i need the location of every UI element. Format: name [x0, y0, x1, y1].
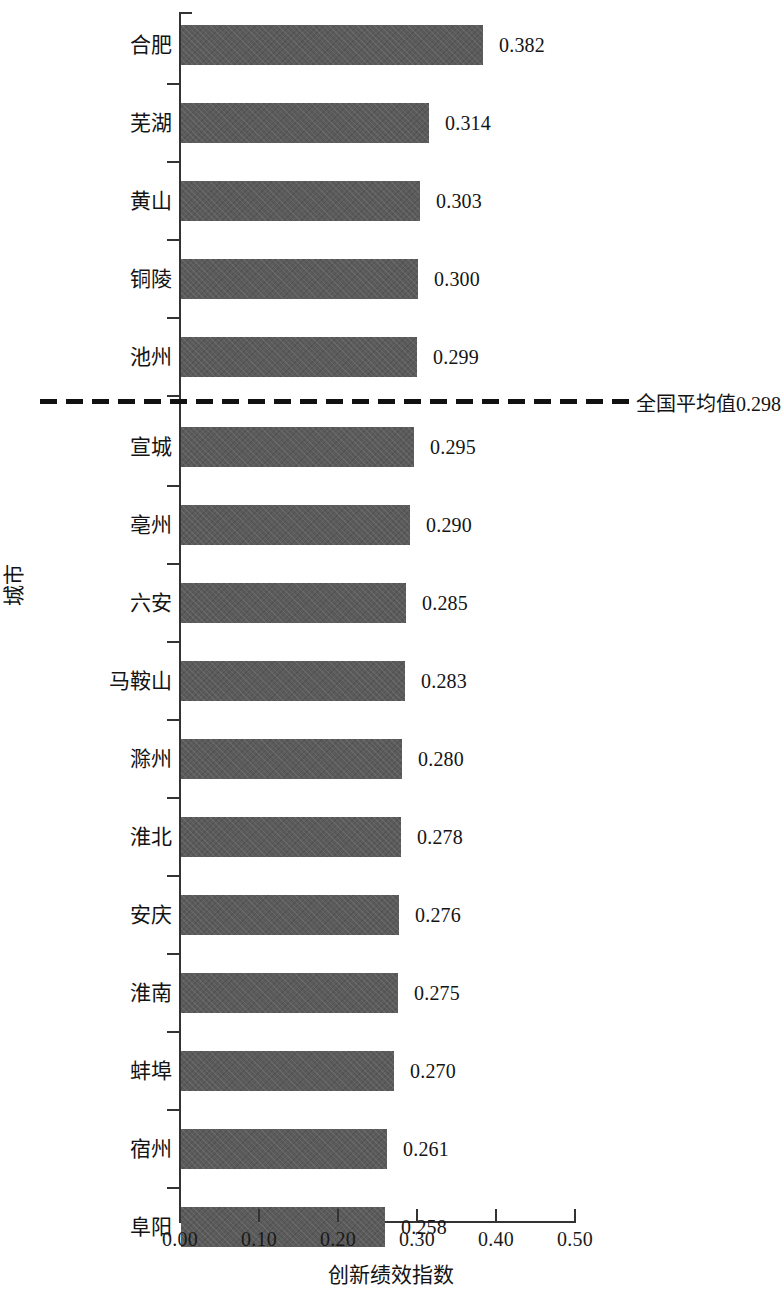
- y-axis-tick: [167, 953, 180, 955]
- category-label: 池州: [0, 337, 172, 377]
- bar-value-label: 0.261: [403, 1129, 449, 1169]
- y-axis-title: 城市: [0, 545, 27, 625]
- bar: [181, 739, 402, 779]
- y-axis-tick: [167, 875, 180, 877]
- bar-value-label: 0.314: [445, 103, 491, 143]
- bar: [181, 25, 483, 65]
- bar: [181, 895, 399, 935]
- x-axis-tick-label: 0.20: [298, 1228, 378, 1251]
- category-label: 合肥: [0, 25, 172, 65]
- bar: [181, 103, 429, 143]
- bar-value-label: 0.300: [434, 259, 480, 299]
- category-label: 黄山: [0, 181, 172, 221]
- category-label: 马鞍山: [0, 661, 172, 701]
- national-average-label: 全国平均值0.298: [636, 388, 781, 417]
- bar-value-label: 0.382: [499, 25, 545, 65]
- bar-value-label: 0.303: [436, 181, 482, 221]
- x-axis-tick: [179, 1209, 181, 1222]
- x-axis-tick: [416, 1209, 418, 1222]
- y-axis-tick: [167, 239, 180, 241]
- bar-value-label: 0.290: [426, 505, 472, 545]
- bar: [181, 337, 417, 377]
- bar-value-label: 0.285: [422, 583, 468, 623]
- bar: [181, 427, 414, 467]
- y-axis-tick: [167, 641, 180, 643]
- bar: [181, 259, 418, 299]
- category-label: 亳州: [0, 505, 172, 545]
- category-label: 淮南: [0, 973, 172, 1013]
- category-label: 芜湖: [0, 103, 172, 143]
- chart-page: 合肥0.382芜湖0.314黄山0.303铜陵0.300池州0.299宣城0.2…: [0, 0, 782, 1296]
- bar-value-label: 0.270: [410, 1051, 456, 1091]
- national-average-dashed-line: [40, 399, 632, 404]
- bar: [181, 181, 420, 221]
- bar: [181, 661, 405, 701]
- y-axis-tick: [167, 395, 180, 397]
- bar: [181, 1051, 394, 1091]
- bar-value-label: 0.278: [417, 817, 463, 857]
- y-axis-tick: [167, 1109, 180, 1111]
- bar-value-label: 0.280: [418, 739, 464, 779]
- x-axis-tick-label: 0.40: [456, 1228, 536, 1251]
- x-axis-tick-label: 0.00: [140, 1228, 220, 1251]
- bar-value-label: 0.283: [421, 661, 467, 701]
- y-axis-tick: [167, 485, 180, 487]
- bar: [181, 973, 398, 1013]
- y-axis-tick: [167, 83, 180, 85]
- y-axis-tick: [167, 161, 180, 163]
- category-label: 安庆: [0, 895, 172, 935]
- y-axis-top-cap-tick: [179, 12, 192, 14]
- bar: [181, 505, 410, 545]
- x-axis-tick: [495, 1209, 497, 1222]
- bar-value-label: 0.295: [430, 427, 476, 467]
- bar-value-label: 0.299: [433, 337, 479, 377]
- category-label: 淮北: [0, 817, 172, 857]
- x-axis-tick: [258, 1209, 260, 1222]
- x-axis-tick-label: 0.50: [535, 1228, 615, 1251]
- category-label: 宿州: [0, 1129, 172, 1169]
- bar-value-label: 0.275: [414, 973, 460, 1013]
- bar-value-label: 0.276: [415, 895, 461, 935]
- category-label: 滁州: [0, 739, 172, 779]
- x-axis-tick: [337, 1209, 339, 1222]
- x-axis-tick-label: 0.10: [219, 1228, 299, 1251]
- y-axis-tick: [167, 1031, 180, 1033]
- x-axis-title: 创新绩效指数: [0, 1258, 782, 1288]
- y-axis-tick: [167, 563, 180, 565]
- category-label: 蚌埠: [0, 1051, 172, 1091]
- y-axis-tick: [167, 1187, 180, 1189]
- bar: [181, 583, 406, 623]
- bar-chart: 合肥0.382芜湖0.314黄山0.303铜陵0.300池州0.299宣城0.2…: [0, 0, 782, 1296]
- category-label: 铜陵: [0, 259, 172, 299]
- bar: [181, 1129, 387, 1169]
- y-axis-tick: [167, 317, 180, 319]
- bar: [181, 817, 401, 857]
- y-axis-tick: [167, 719, 180, 721]
- x-axis-tick: [574, 1209, 576, 1222]
- y-axis-tick: [167, 797, 180, 799]
- x-axis-tick-label: 0.30: [377, 1228, 457, 1251]
- category-label: 宣城: [0, 427, 172, 467]
